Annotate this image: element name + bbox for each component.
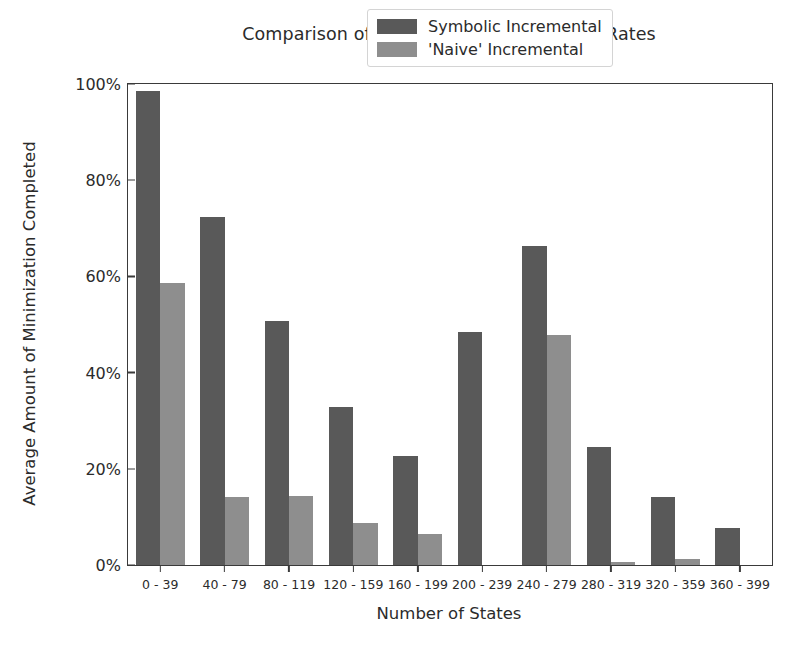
x-axis-tick: 120 - 159 — [323, 565, 383, 592]
legend-swatch-icon — [377, 42, 417, 57]
bar-symbolic-3 — [329, 407, 353, 565]
x-axis-tick-mark — [739, 565, 740, 572]
y-axis-tick: 60% — [85, 267, 128, 286]
y-axis-tick-label: 100% — [75, 75, 128, 94]
x-axis-tick-label: 200 - 239 — [452, 577, 512, 592]
x-axis-tick-label: 0 - 39 — [142, 577, 178, 592]
plot-frame: 0%20%40%60%80%100%0 - 3940 - 7980 - 1191… — [127, 83, 773, 566]
bar-naive-3 — [353, 523, 377, 565]
y-axis-label-text: Average Amount of Minimization Completed — [20, 141, 39, 505]
bar-symbolic-2 — [265, 321, 289, 565]
x-axis-tick: 160 - 199 — [388, 565, 448, 592]
legend-label: 'Naive' Incremental — [428, 40, 583, 59]
bar-symbolic-1 — [200, 217, 224, 565]
x-axis-tick-mark — [353, 565, 354, 572]
x-axis-tick-mark — [417, 565, 418, 572]
y-axis-label: Average Amount of Minimization Completed — [18, 83, 40, 564]
bar-symbolic-0 — [136, 91, 160, 565]
x-axis-tick-label: 40 - 79 — [202, 577, 246, 592]
bar-symbolic-8 — [651, 497, 675, 565]
bar-naive-0 — [160, 283, 184, 565]
chart-figure: Comparison of Incremental Minimization R… — [0, 0, 809, 650]
bar-symbolic-7 — [587, 447, 611, 565]
y-axis-tick-mark — [128, 276, 135, 277]
y-axis-tick: 100% — [75, 75, 128, 94]
x-axis-tick-label: 320 - 359 — [645, 577, 705, 592]
x-axis-tick: 40 - 79 — [202, 565, 246, 592]
y-axis-tick-mark — [128, 564, 135, 565]
y-axis-tick: 80% — [85, 171, 128, 190]
y-axis-tick-label: 80% — [85, 171, 128, 190]
x-axis-tick-label: 240 - 279 — [517, 577, 577, 592]
x-axis-tick-mark — [224, 565, 225, 572]
plot-area — [128, 84, 772, 565]
bar-symbolic-6 — [522, 246, 546, 565]
x-axis-tick-label: 280 - 319 — [581, 577, 641, 592]
y-axis-tick-mark — [128, 179, 135, 180]
x-axis-tick-label: 360 - 399 — [710, 577, 770, 592]
y-axis-tick-mark — [128, 468, 135, 469]
bar-naive-1 — [225, 497, 249, 565]
x-axis-tick-mark — [546, 565, 547, 572]
y-axis-tick-label: 60% — [85, 267, 128, 286]
x-axis-tick-mark — [481, 565, 482, 572]
y-axis-tick: 40% — [85, 363, 128, 382]
x-axis-tick-mark — [675, 565, 676, 572]
y-axis-tick-label: 0% — [96, 556, 128, 575]
legend-label: Symbolic Incremental — [428, 17, 602, 36]
bar-symbolic-4 — [393, 456, 417, 565]
x-axis-tick: 320 - 359 — [645, 565, 705, 592]
x-axis-tick: 280 - 319 — [581, 565, 641, 592]
legend-entry-1: 'Naive' Incremental — [377, 40, 602, 59]
x-axis-tick-label: 120 - 159 — [323, 577, 383, 592]
x-axis-tick-label: 80 - 119 — [263, 577, 315, 592]
bar-naive-4 — [418, 534, 442, 565]
y-axis-tick: 20% — [85, 459, 128, 478]
x-axis-tick: 240 - 279 — [517, 565, 577, 592]
x-axis-label: Number of States — [127, 604, 771, 623]
x-axis-tick: 0 - 39 — [142, 565, 178, 592]
legend-entry-0: Symbolic Incremental — [377, 17, 602, 36]
x-axis-tick-mark — [159, 565, 160, 572]
y-axis-tick-label: 20% — [85, 459, 128, 478]
y-axis-tick-mark — [128, 83, 135, 84]
y-axis-tick-mark — [128, 372, 135, 373]
bar-naive-6 — [547, 335, 571, 565]
y-axis-tick: 0% — [96, 556, 128, 575]
chart-legend: Symbolic Incremental'Naive' Incremental — [367, 9, 613, 67]
legend-swatch-icon — [377, 19, 417, 34]
x-axis-tick: 80 - 119 — [263, 565, 315, 592]
y-axis-tick-label: 40% — [85, 363, 128, 382]
bar-naive-2 — [289, 496, 313, 565]
bar-symbolic-9 — [715, 528, 739, 565]
x-axis-tick-label: 160 - 199 — [388, 577, 448, 592]
x-axis-tick: 200 - 239 — [452, 565, 512, 592]
x-axis-tick: 360 - 399 — [710, 565, 770, 592]
x-axis-tick-mark — [288, 565, 289, 572]
x-axis-tick-mark — [610, 565, 611, 572]
bar-symbolic-5 — [458, 332, 482, 565]
